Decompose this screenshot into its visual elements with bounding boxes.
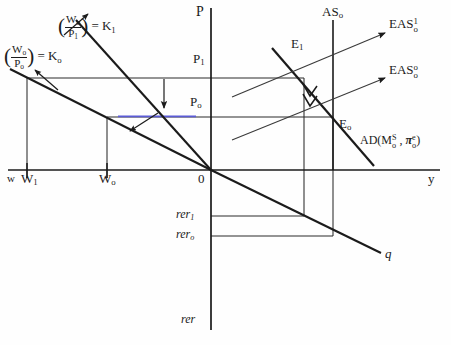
supsub-pi: eo bbox=[412, 134, 416, 149]
label-real-wage-K0: (WoPo) = Ko bbox=[4, 44, 62, 71]
k0-equals: = K bbox=[37, 48, 57, 63]
label-axis-w: w bbox=[7, 173, 15, 184]
label-equilibrium-E1: E1 bbox=[291, 37, 303, 52]
label-tick-Wo: Wo bbox=[99, 172, 116, 187]
diagram-canvas: (WoP1) = K1 (WoPo) = Ko P P1 Po ASo EAS1… bbox=[0, 0, 451, 345]
line-K0 bbox=[10, 69, 211, 170]
label-curve-AD: AD(MSo , πeo) bbox=[360, 134, 420, 149]
line-q bbox=[211, 170, 381, 253]
paren-close-K1: ) bbox=[81, 16, 88, 37]
paren-close-K0: ) bbox=[27, 46, 34, 67]
label-tick-W1: W1 bbox=[21, 172, 38, 187]
label-tick-Po: Po bbox=[190, 95, 202, 110]
real-wage-schedules bbox=[10, 20, 211, 170]
paren-open-K1: ( bbox=[58, 16, 65, 37]
label-origin: 0 bbox=[198, 172, 205, 185]
label-tick-P1: P1 bbox=[193, 52, 205, 67]
line-AD bbox=[272, 48, 374, 166]
axis-lines bbox=[8, 8, 440, 330]
fraction-Wo-Po: WoPo bbox=[11, 44, 27, 71]
label-curve-q: q bbox=[385, 247, 392, 260]
label-curve-AS: ASo bbox=[322, 5, 343, 20]
supsub-EAS1: 1o bbox=[414, 17, 418, 34]
eas-schedules bbox=[232, 33, 385, 140]
fraction-Wo-P1: WoP1 bbox=[65, 14, 81, 41]
label-tick-rer0: rero bbox=[176, 228, 194, 242]
k1-equals: = K bbox=[91, 18, 111, 33]
paren-open-K0: ( bbox=[4, 46, 11, 67]
label-curve-EAS1: EAS1o bbox=[389, 17, 418, 34]
arrow-AD-movement bbox=[303, 84, 317, 106]
label-tick-rer1: rer1 bbox=[176, 208, 194, 222]
label-axis-rer: rer bbox=[181, 313, 195, 325]
diagram-vector-layer bbox=[0, 0, 451, 345]
label-real-wage-K1: (WoP1) = K1 bbox=[58, 14, 116, 41]
label-equilibrium-E0: Eo bbox=[339, 117, 351, 132]
label-curve-EAS0: EASoo bbox=[389, 63, 418, 80]
supsub-M: So bbox=[392, 134, 397, 149]
label-axis-P: P bbox=[196, 5, 204, 19]
supsub-EAS0: oo bbox=[414, 63, 418, 80]
label-axis-y: y bbox=[428, 172, 435, 185]
